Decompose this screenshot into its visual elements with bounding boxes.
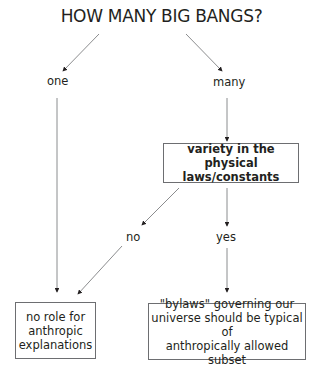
branch-label-no: no — [126, 230, 140, 244]
bylaws-line-1: "bylaws" governing our — [160, 297, 295, 311]
no-role-line-2: anthropic — [28, 324, 82, 338]
diagram-title: HOW MANY BIG BANGS? — [0, 6, 323, 26]
variety-box: variety in the physical laws/constants — [163, 143, 299, 183]
branch-label-one: one — [47, 74, 68, 88]
branch-label-yes: yes — [216, 230, 236, 244]
flowchart-canvas: HOW MANY BIG BANGS? one many variety in … — [0, 0, 323, 372]
no-role-line-1: no role for — [26, 310, 85, 324]
bylaws-line-3: anthropically allowed subset — [149, 339, 305, 367]
variety-line-1: variety in the — [187, 142, 274, 156]
variety-line-2: physical laws/constants — [164, 156, 298, 184]
no-role-line-3: explanations — [19, 338, 93, 352]
branch-label-many: many — [213, 75, 245, 89]
bylaws-box: "bylaws" governing our universe should b… — [148, 303, 306, 360]
bylaws-line-2: universe should be typical of — [149, 311, 305, 339]
no-role-box: no role for anthropic explanations — [15, 302, 96, 359]
